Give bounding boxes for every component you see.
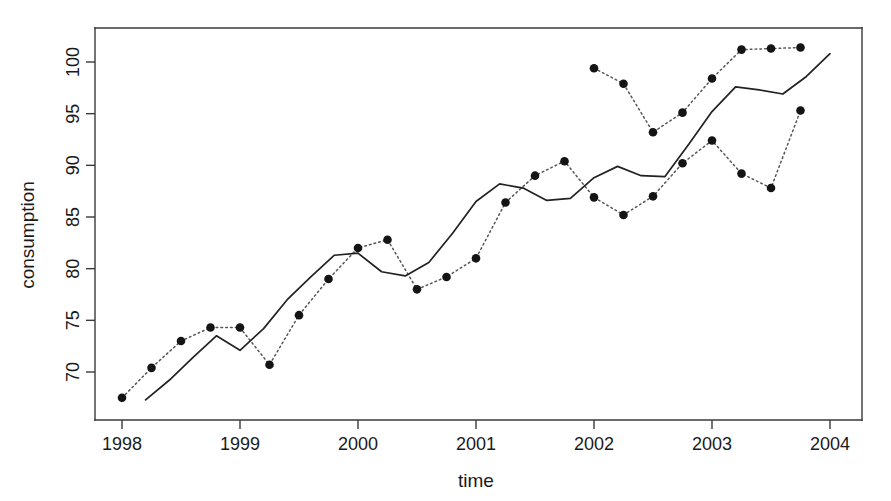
y-axis-title: consumption: [17, 181, 38, 289]
x-tick-label: 2004: [810, 434, 850, 454]
y-tick-label: 100: [63, 47, 83, 77]
data-point: [501, 198, 510, 207]
data-point: [265, 360, 274, 369]
data-point: [118, 394, 127, 403]
y-tick-label: 75: [63, 310, 83, 330]
x-tick-label: 2000: [338, 434, 378, 454]
series-path-observed-continued: [594, 48, 801, 133]
data-point: [531, 171, 540, 180]
data-point: [383, 235, 392, 244]
data-point: [590, 64, 599, 73]
data-point: [649, 128, 658, 137]
data-point: [678, 159, 687, 168]
data-point: [619, 211, 628, 220]
x-axis-title: time: [458, 470, 494, 491]
data-point: [560, 157, 569, 166]
data-point: [442, 273, 451, 282]
data-point: [295, 311, 304, 320]
x-tick-label: 2003: [692, 434, 732, 454]
y-axis-ticks: 707580859095100: [63, 47, 95, 382]
axes: [95, 28, 862, 420]
data-point: [236, 323, 245, 332]
y-tick-label: 95: [63, 104, 83, 124]
data-point: [737, 169, 746, 178]
data-point: [177, 337, 186, 346]
data-point: [472, 254, 481, 263]
data-point: [413, 285, 422, 294]
data-point: [767, 44, 776, 53]
x-axis-ticks: 1998199920002001200220032004: [102, 420, 850, 454]
data-point: [708, 74, 717, 83]
y-tick-label: 90: [63, 155, 83, 175]
consumption-time-series-chart: 707580859095100 199819992000200120022003…: [0, 0, 891, 501]
data-point: [737, 45, 746, 54]
x-tick-label: 2002: [574, 434, 614, 454]
data-point: [619, 79, 628, 88]
data-point: [324, 275, 333, 284]
data-point: [796, 43, 805, 52]
data-point: [708, 136, 717, 145]
data-point: [796, 106, 805, 115]
y-tick-label: 70: [63, 362, 83, 382]
data-point: [354, 244, 363, 253]
data-point: [206, 323, 215, 332]
y-tick-label: 80: [63, 259, 83, 279]
data-point: [649, 192, 658, 201]
data-point: [147, 364, 156, 373]
x-tick-label: 1998: [102, 434, 142, 454]
y-tick-label: 85: [63, 207, 83, 227]
data-point: [678, 108, 687, 117]
plot-canvas: 707580859095100 199819992000200120022003…: [0, 0, 891, 501]
series-path-observed: [122, 111, 801, 398]
data-series: [118, 43, 830, 402]
data-point: [590, 193, 599, 202]
x-tick-label: 1999: [220, 434, 260, 454]
data-point: [767, 184, 776, 193]
x-tick-label: 2001: [456, 434, 496, 454]
series-path-fitted: [146, 54, 830, 400]
